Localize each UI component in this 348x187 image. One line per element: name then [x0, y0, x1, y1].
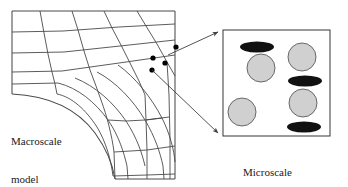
inclusion-ellipse	[287, 122, 321, 133]
macroscale-fillet-arcs	[58, 65, 175, 166]
macroscale-label-line1: Macroscale	[11, 135, 62, 148]
microscale-label: Microscale model	[243, 141, 292, 187]
multiscale-model-figure: Macroscale model Microscale model	[0, 0, 348, 187]
macroscale-label-line2: model	[11, 173, 62, 186]
arrow-lower	[152, 70, 218, 133]
inclusion-ellipse	[240, 42, 274, 53]
inclusion-ellipse	[288, 76, 322, 87]
inclusion-circle	[228, 98, 256, 126]
inclusion-circle	[247, 54, 275, 82]
integration-dot	[162, 60, 167, 65]
integration-dot	[173, 44, 178, 49]
microscale-label-line1: Microscale	[243, 166, 292, 179]
inclusion-circle	[289, 89, 317, 117]
macroscale-vertical-lines	[40, 11, 175, 100]
macroscale-label: Macroscale model	[11, 110, 62, 187]
macroscale-lower-lines	[108, 117, 175, 176]
microscale-model-box	[223, 30, 330, 136]
integration-dot	[150, 55, 155, 60]
inclusion-circle	[288, 43, 316, 71]
integration-point-dots	[149, 44, 178, 72]
